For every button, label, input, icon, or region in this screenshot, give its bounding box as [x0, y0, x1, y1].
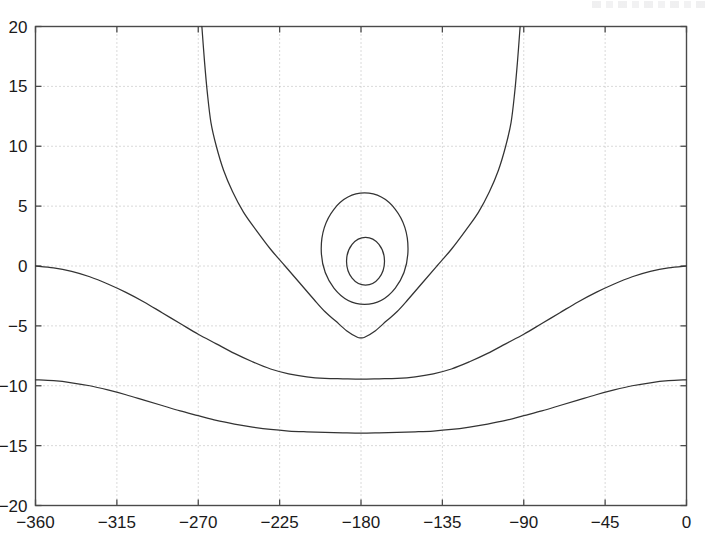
chart-canvas: −360−315−270−225−180−135−90−450 −20−15−1…	[0, 0, 714, 554]
y-tick-label: −10	[0, 377, 28, 396]
y-tick-label: −5	[8, 317, 27, 336]
x-tick-label: −135	[423, 513, 461, 532]
contour-plot-figure: −360−315−270−225−180−135−90−450 −20−15−1…	[0, 0, 714, 554]
curve-outer-closed-orbit	[321, 193, 408, 304]
x-tick-label: −180	[342, 513, 380, 532]
y-tick-label: 5	[18, 197, 27, 216]
y-tick-label: 0	[18, 257, 27, 276]
x-tick-label: −270	[179, 513, 217, 532]
x-tick-label: −225	[260, 513, 298, 532]
y-axis-tick-labels: −20−15−10−505101520	[0, 18, 28, 516]
y-tick-label: 15	[9, 77, 28, 96]
x-tick-label: 0	[682, 513, 691, 532]
x-tick-label: −90	[509, 513, 538, 532]
curve-lower-wave-contour	[36, 380, 687, 433]
y-tick-label: −20	[0, 497, 28, 516]
y-tick-label: 20	[9, 18, 28, 37]
y-tick-label: −15	[0, 437, 28, 456]
curve-inner-closed-orbit	[347, 237, 385, 285]
x-tick-label: −45	[591, 513, 620, 532]
x-axis-tick-labels: −360−315−270−225−180−135−90−450	[16, 513, 691, 532]
x-tick-label: −315	[98, 513, 136, 532]
y-tick-label: 10	[9, 137, 28, 156]
